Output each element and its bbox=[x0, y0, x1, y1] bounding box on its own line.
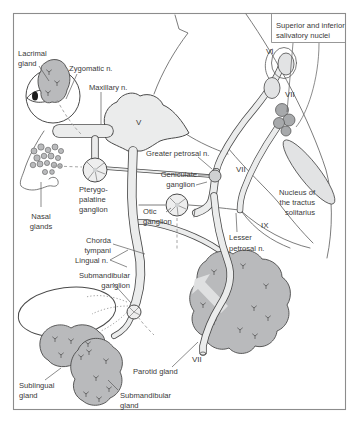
numeral-glossopharyngeal-ix: IX bbox=[261, 221, 269, 230]
label-salivatory-nuclei: salivatory nuclei bbox=[276, 31, 330, 40]
numeral-facial-vii-nucleus: VII bbox=[285, 90, 295, 99]
label-otic-ganglion: Otic bbox=[143, 207, 157, 216]
label-chorda-tympani: Chorda bbox=[86, 236, 112, 245]
label-lacrimal-gland: gland bbox=[18, 59, 37, 68]
label-lingual-n: Lingual n. bbox=[75, 256, 108, 265]
label-salivatory-nuclei: Superior and inferior bbox=[276, 21, 345, 30]
submandibular-ganglion-shape bbox=[127, 305, 141, 319]
label-submandibular-ganglion: Submandibular bbox=[79, 271, 131, 280]
label-pterygopalatine-ganglion: ganglion bbox=[79, 205, 108, 214]
label-nucleus-tractus-solitarius: solitarius bbox=[285, 208, 315, 217]
geniculate-ganglion-shape bbox=[209, 170, 221, 182]
numeral-abducens-vi: VI bbox=[266, 47, 274, 56]
label-nasal-glands: Nasal bbox=[31, 212, 51, 221]
anatomy-diagram: Lacrimal gland Zygomatic n. Maxillary n.… bbox=[0, 0, 358, 421]
label-lesser-petrosal: Lesser bbox=[229, 233, 252, 242]
label-submandibular-gland: Submandibular bbox=[120, 391, 172, 400]
label-submandibular-ganglion: ganglion bbox=[101, 281, 130, 290]
otic-ganglion-shape bbox=[166, 194, 188, 216]
numeral-trigeminal-v: V bbox=[136, 118, 142, 127]
label-nucleus-tractus-solitarius: the tractus bbox=[280, 198, 316, 207]
label-parotid-gland: Parotid gland bbox=[133, 367, 178, 376]
label-sublingual-gland: Sublingual bbox=[19, 381, 55, 390]
label-greater-petrosal: Greater petrosal n. bbox=[146, 149, 209, 158]
pupil bbox=[32, 91, 38, 100]
label-geniculate-ganglion: Geniculate bbox=[161, 170, 197, 179]
label-chorda-tympani: tympani bbox=[84, 246, 111, 255]
pterygopalatine-ganglion-shape bbox=[83, 158, 107, 182]
numeral-facial-vii-exit: VII bbox=[192, 355, 202, 364]
label-nucleus-tractus-solitarius: Nucleus of bbox=[279, 188, 316, 197]
numeral-facial-vii-canal: VII bbox=[236, 165, 246, 174]
label-lacrimal-gland: Lacrimal bbox=[18, 49, 47, 58]
lacrimal-gland-shape bbox=[38, 60, 70, 103]
figure-canvas: Lacrimal gland Zygomatic n. Maxillary n.… bbox=[0, 0, 358, 421]
label-submandibular-gland: gland bbox=[120, 401, 139, 410]
facial-nucleus bbox=[264, 78, 280, 99]
submandibular-gland-shape bbox=[71, 338, 123, 405]
label-lesser-petrosal: petrosal n. bbox=[229, 244, 264, 253]
label-pterygopalatine-ganglion: palatine bbox=[79, 195, 106, 204]
label-maxillary-n: Maxillary n. bbox=[89, 83, 127, 92]
label-zygomatic-n: Zygomatic n. bbox=[69, 64, 112, 73]
label-otic-ganglion: ganglion bbox=[143, 217, 172, 226]
label-pterygopalatine-ganglion: Pterygo- bbox=[79, 185, 108, 194]
label-geniculate-ganglion: ganglion bbox=[166, 180, 195, 189]
label-nasal-glands: glands bbox=[30, 222, 53, 231]
label-sublingual-gland: gland bbox=[19, 391, 38, 400]
